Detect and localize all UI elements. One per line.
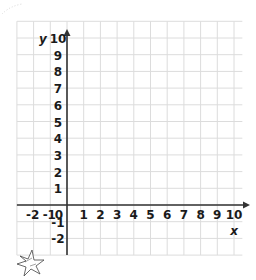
y-tick-label: 4 bbox=[54, 133, 62, 145]
x-tick-label: 10 bbox=[226, 209, 243, 221]
star-burst-icon bbox=[17, 250, 44, 276]
y-tick-label: 5 bbox=[54, 117, 62, 129]
y-axis-name: y bbox=[39, 33, 47, 45]
y-tick-label: 2 bbox=[54, 167, 62, 179]
x-tick-label: 8 bbox=[196, 209, 204, 221]
x-tick-label: 3 bbox=[113, 209, 121, 221]
x-tick-label: 1 bbox=[80, 209, 88, 221]
y-tick-label: -1 bbox=[51, 217, 64, 229]
y-tick-label: 8 bbox=[54, 66, 62, 78]
x-tick-label: 7 bbox=[180, 209, 188, 221]
y-tick-label: -2 bbox=[51, 233, 64, 245]
decorative-arc bbox=[2, 4, 22, 14]
y-tick-label: 9 bbox=[54, 50, 62, 62]
x-tick-label: 2 bbox=[96, 209, 104, 221]
x-tick-label: 6 bbox=[163, 209, 171, 221]
x-tick-label: 9 bbox=[213, 209, 221, 221]
y-tick-label: 6 bbox=[54, 100, 62, 112]
coordinate-grid-chart: -2-101234567891010987654321-1-2yx bbox=[0, 0, 256, 280]
x-axis-name: x bbox=[230, 225, 238, 237]
y-tick-label: 3 bbox=[54, 150, 62, 162]
x-tick-label: 5 bbox=[146, 209, 154, 221]
y-tick-label: 7 bbox=[54, 83, 62, 95]
x-tick-label: -2 bbox=[26, 209, 39, 221]
y-tick-label: 10 bbox=[50, 33, 67, 45]
x-axis-arrow-icon bbox=[243, 202, 250, 209]
y-tick-label: 1 bbox=[54, 183, 62, 195]
x-tick-label: 4 bbox=[130, 209, 138, 221]
